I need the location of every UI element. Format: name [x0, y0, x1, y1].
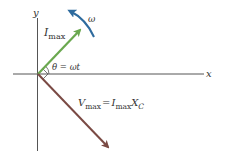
voltage-phasor-label: Vmax=ImaxXC: [78, 97, 144, 111]
omega-label: ω: [88, 14, 96, 24]
current-phasor-label: Imax: [43, 26, 66, 41]
phasor-diagram: x y Imax ω θ = ωt Vmax=ImaxXC: [0, 0, 226, 157]
y-axis-label: y: [32, 7, 39, 18]
angle-label: θ = ωt: [52, 62, 81, 72]
x-axis-label: x: [206, 68, 212, 79]
